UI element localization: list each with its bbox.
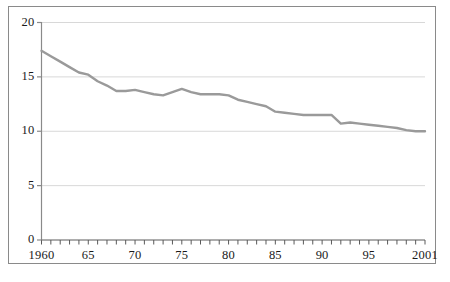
gridlines-group xyxy=(42,23,426,186)
y-tick-marks-group xyxy=(37,23,42,241)
y-axis-label-10: 10 xyxy=(8,123,35,138)
x-axis-label-1995: 95 xyxy=(346,248,392,263)
line-chart-figure: 05101520 1960657075808590952001 xyxy=(0,0,450,282)
x-axis-label-1980: 80 xyxy=(206,248,252,263)
x-axis-label-1985: 85 xyxy=(252,248,298,263)
x-axis-label-2001: 2001 xyxy=(402,248,448,263)
chart-plot-area xyxy=(0,0,450,282)
y-axis-label-0: 0 xyxy=(8,232,35,247)
data-series-line xyxy=(42,51,426,131)
y-axis-label-20: 20 xyxy=(8,15,35,30)
x-axis-label-1965: 65 xyxy=(65,248,111,263)
x-axis-label-1975: 75 xyxy=(159,248,205,263)
x-axis-label-1970: 70 xyxy=(112,248,158,263)
x-axis-label-1960: 1960 xyxy=(19,248,65,263)
series-line-rate xyxy=(42,51,426,131)
y-axis-label-5: 5 xyxy=(8,178,35,193)
x-axis-label-1990: 90 xyxy=(299,248,345,263)
y-axis-label-15: 15 xyxy=(8,69,35,84)
x-tick-marks-group xyxy=(42,240,426,245)
